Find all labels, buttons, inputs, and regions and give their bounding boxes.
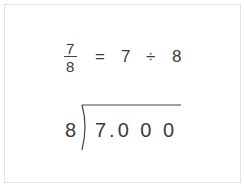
long-division-bracket	[0, 0, 244, 187]
long-division-dividend: 7.0 0 0	[95, 120, 177, 140]
